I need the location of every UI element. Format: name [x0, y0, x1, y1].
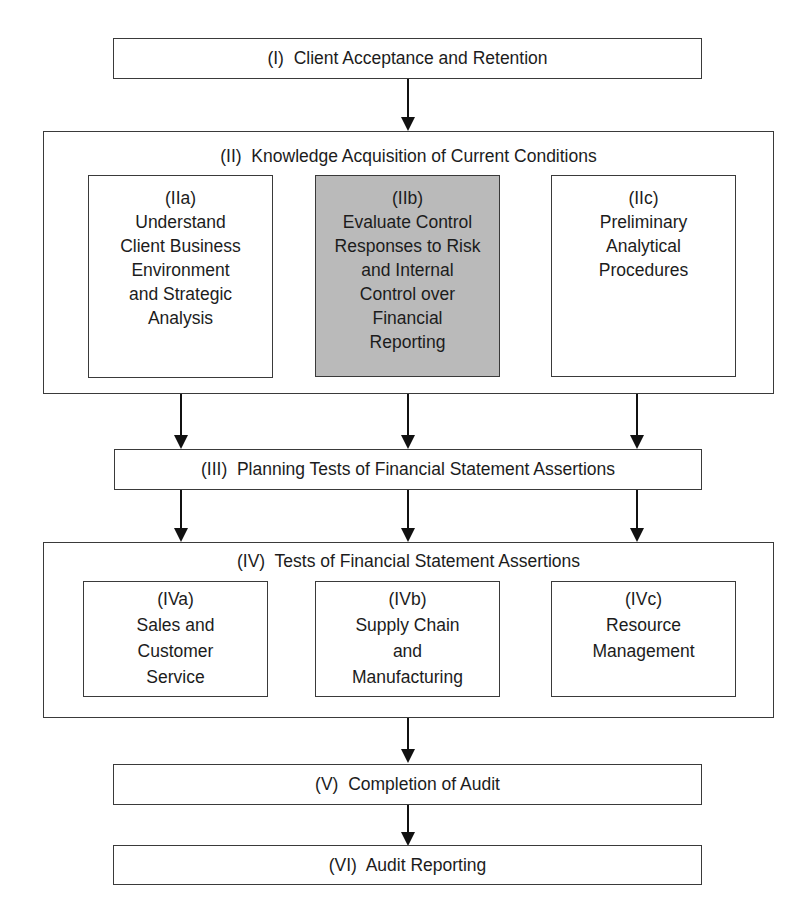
substep-iia-line: Analysis — [148, 306, 213, 330]
substep-iia-understand-client-business: (IIa) Understand Client Business Environ… — [88, 175, 273, 378]
substep-iia-line: Client Business — [120, 234, 241, 258]
substep-iva-line: (IVa) — [157, 586, 194, 612]
substep-iia-line: and Strategic — [129, 282, 232, 306]
substep-iic-line: Analytical — [606, 234, 681, 258]
substep-ivb-supply-chain-manufacturing: (IVb) Supply Chain and Manufacturing — [315, 581, 500, 697]
substep-ivc-line: Resource — [606, 612, 681, 638]
substep-ivc-line: Management — [592, 638, 694, 664]
substep-iia-line: Environment — [131, 258, 229, 282]
substep-iib-line: Evaluate Control — [343, 210, 472, 234]
substep-iia-line: Understand — [135, 210, 225, 234]
substep-ivc-resource-management: (IVc) Resource Management — [551, 581, 736, 697]
substep-iva-line: Customer — [138, 638, 214, 664]
substep-iic-preliminary-analytical: (IIc) Preliminary Analytical Procedures — [551, 175, 736, 377]
stage-ii-label: (II) Knowledge Acquisition of Current Co… — [44, 146, 773, 167]
stage-v-label: (V) Completion of Audit — [315, 774, 500, 795]
substep-iic-line: Preliminary — [600, 210, 688, 234]
substep-ivc-line: (IVc) — [625, 586, 662, 612]
substep-iva-line: Sales and — [137, 612, 215, 638]
substep-iib-line: and Internal — [361, 258, 453, 282]
substep-iic-line: (IIc) — [628, 186, 658, 210]
substep-iic-line: Procedures — [599, 258, 689, 282]
substep-iva-sales-customer-service: (IVa) Sales and Customer Service — [83, 581, 268, 697]
substep-ivb-line: Manufacturing — [352, 664, 463, 690]
stage-iii-planning-tests: (III) Planning Tests of Financial Statem… — [114, 449, 702, 490]
stage-v-completion-of-audit: (V) Completion of Audit — [113, 764, 702, 805]
stage-i-label: (I) Client Acceptance and Retention — [267, 48, 547, 69]
substep-iib-line: Reporting — [370, 330, 446, 354]
stage-iv-label: (IV) Tests of Financial Statement Assert… — [44, 551, 773, 572]
substep-iib-evaluate-control-highlighted: (IIb) Evaluate Control Responses to Risk… — [315, 175, 500, 377]
substep-iia-line: (IIa) — [165, 186, 196, 210]
substep-iib-line: Financial — [372, 306, 442, 330]
substep-ivb-line: Supply Chain — [355, 612, 459, 638]
stage-iii-label: (III) Planning Tests of Financial Statem… — [201, 459, 615, 480]
substep-ivb-line: and — [393, 638, 422, 664]
stage-vi-label: (VI) Audit Reporting — [329, 855, 487, 876]
substep-iib-line: Responses to Risk — [335, 234, 481, 258]
substep-iib-line: Control over — [360, 282, 455, 306]
substep-iib-line: (IIb) — [392, 186, 423, 210]
stage-vi-audit-reporting: (VI) Audit Reporting — [113, 845, 702, 885]
substep-ivb-line: (IVb) — [389, 586, 427, 612]
substep-iva-line: Service — [146, 664, 204, 690]
stage-i-client-acceptance: (I) Client Acceptance and Retention — [113, 38, 702, 79]
